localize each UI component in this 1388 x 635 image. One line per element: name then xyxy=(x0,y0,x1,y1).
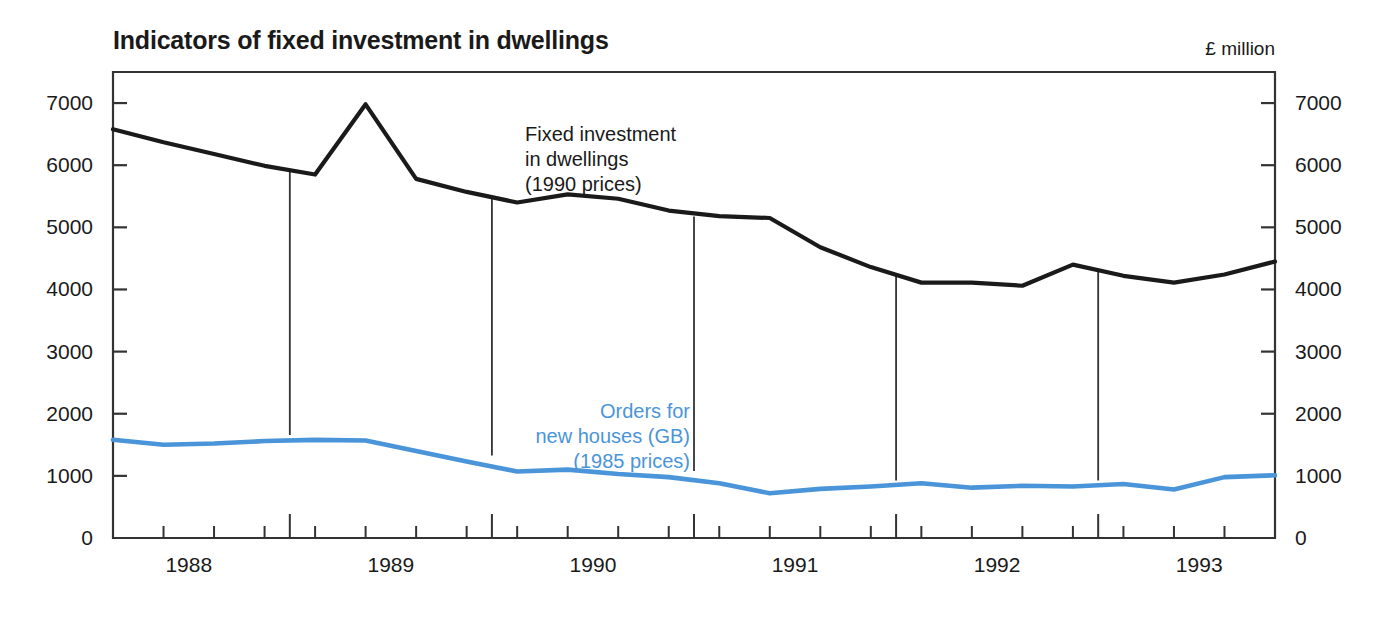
y-axis-tick-label-right: 4000 xyxy=(1295,277,1342,300)
y-axis-tick-label-right: 0 xyxy=(1295,526,1307,549)
y-axis-tick-label-right: 2000 xyxy=(1295,402,1342,425)
annotation-orders-new-houses: Orders for new houses (GB) (1985 prices) xyxy=(535,400,690,472)
y-axis-tick-label-left: 2000 xyxy=(46,402,93,425)
y-axis-tick-label-right: 6000 xyxy=(1295,153,1342,176)
line-chart-svg: 0010001000200020003000300040004000500050… xyxy=(0,0,1388,635)
x-axis-year-label: 1992 xyxy=(974,553,1021,576)
chart-container: Indicators of fixed investment in dwelli… xyxy=(0,0,1388,635)
x-axis-year-label: 1993 xyxy=(1176,553,1223,576)
y-axis-tick-label-left: 5000 xyxy=(46,215,93,238)
y-axis-tick-label-left: 0 xyxy=(81,526,93,549)
x-axis-year-label: 1988 xyxy=(165,553,212,576)
annotation-blue-line1: Orders for xyxy=(600,400,690,422)
y-axis-tick-label-right: 1000 xyxy=(1295,464,1342,487)
y-axis-tick-label-left: 7000 xyxy=(46,91,93,114)
y-axis-tick-label-right: 3000 xyxy=(1295,340,1342,363)
annotation-blue-line2: new houses (GB) xyxy=(535,425,690,447)
y-axis-tick-label-right: 5000 xyxy=(1295,215,1342,238)
x-axis-year-label: 1989 xyxy=(368,553,415,576)
vertical-dividers-layer xyxy=(290,172,1098,481)
y-axis-tick-label-left: 6000 xyxy=(46,153,93,176)
y-axis-tick-label-right: 7000 xyxy=(1295,91,1342,114)
x-axis-year-label: 1990 xyxy=(570,553,617,576)
x-axis-year-label: 1991 xyxy=(772,553,819,576)
annotation-black-line1: Fixed investment xyxy=(525,123,677,145)
annotation-blue-line3: (1985 prices) xyxy=(573,450,690,472)
y-axis-tick-label-left: 4000 xyxy=(46,277,93,300)
annotation-fixed-investment: Fixed investment in dwellings (1990 pric… xyxy=(525,123,677,195)
annotation-black-line2: in dwellings xyxy=(525,148,628,170)
y-axis-tick-label-left: 3000 xyxy=(46,340,93,363)
y-axis-tick-label-left: 1000 xyxy=(46,464,93,487)
annotation-black-line3: (1990 prices) xyxy=(525,173,642,195)
